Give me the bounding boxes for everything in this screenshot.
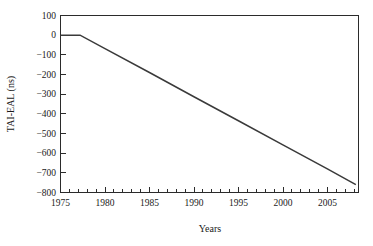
data-series-line <box>61 35 356 184</box>
x-axis-title: Years <box>199 223 221 234</box>
line-chart: 100 0 −100 −200 −300 −400 −500 −600 −700… <box>0 0 373 246</box>
y-axis-ticks <box>61 16 66 193</box>
x-axis-major-ticks <box>61 187 328 193</box>
x-tick-label: 1980 <box>96 198 115 208</box>
x-axis-minor-ticks <box>69 189 354 193</box>
y-tick-label: −400 <box>36 109 56 119</box>
x-axis-tick-labels: 1975 1980 1985 1990 1995 2000 2005 <box>51 198 337 208</box>
chart-figure: 100 0 −100 −200 −300 −400 −500 −600 −700… <box>0 0 373 246</box>
y-axis-title: TAI-EAL (ns) <box>5 76 17 132</box>
y-tick-label: −300 <box>36 89 56 99</box>
plot-frame <box>61 16 359 193</box>
x-tick-label: 1975 <box>51 198 70 208</box>
x-tick-label: 2000 <box>274 198 293 208</box>
x-tick-label: 1985 <box>140 198 159 208</box>
x-tick-label: 2005 <box>318 198 337 208</box>
y-axis-tick-labels: 100 0 −100 −200 −300 −400 −500 −600 −700… <box>36 11 56 198</box>
x-tick-label: 1990 <box>185 198 204 208</box>
y-tick-label: −700 <box>36 168 56 178</box>
y-tick-label: 100 <box>42 11 57 21</box>
y-tick-label: −100 <box>36 50 56 60</box>
y-tick-label: −800 <box>36 188 56 198</box>
y-tick-label: −200 <box>36 70 56 80</box>
y-tick-label: −500 <box>36 129 56 139</box>
x-tick-label: 1995 <box>229 198 248 208</box>
y-tick-label: −600 <box>36 148 56 158</box>
y-tick-label: 0 <box>51 30 56 40</box>
